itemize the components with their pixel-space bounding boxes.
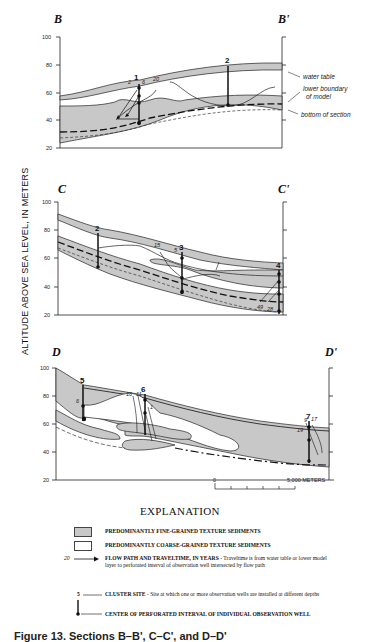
scale-bar: [215, 483, 295, 489]
svg-text:100: 100: [40, 365, 49, 371]
svg-text:60: 60: [44, 255, 50, 261]
legend-well-center: CENTER OF PERFORATED INTERVAL OF INDIVID…: [105, 611, 311, 618]
c-well-2: 2: [95, 224, 100, 233]
svg-text:17: 17: [311, 416, 318, 422]
section-d-diagram: 100 80 60 40 20 5 6 7 6 16 11 1 9 17 19 …: [0, 355, 374, 495]
svg-text:20: 20: [43, 477, 49, 483]
b-well-2: 2: [225, 56, 230, 65]
svg-text:2: 2: [127, 79, 131, 85]
d-well-5: 5: [80, 376, 85, 385]
b-tick-100: 100: [42, 34, 51, 40]
svg-text:20: 20: [152, 76, 160, 82]
svg-text:80: 80: [46, 62, 52, 68]
cluster-well-icon: [76, 592, 106, 622]
svg-text:49: 49: [257, 304, 263, 310]
svg-text:20: 20: [46, 145, 52, 151]
explanation-title: EXPLANATION: [140, 505, 220, 517]
svg-text:60: 60: [43, 421, 49, 427]
c-well-4: 4: [276, 261, 281, 270]
scale-bar-start: 0: [213, 477, 216, 483]
svg-text:9: 9: [304, 417, 307, 423]
svg-text:of model: of model: [306, 93, 331, 100]
legend-coarse-grained: PREDOMINANTLY COARSE-GRAINED TEXTURE SED…: [105, 542, 271, 549]
svg-text:1: 1: [150, 404, 153, 410]
legend-flow-path: FLOW PATH AND TRAVELTIME, IN YEARS - Tra…: [105, 555, 335, 569]
annotation-water-table: water table: [303, 73, 335, 80]
flow-arrow-value: 20: [64, 555, 70, 562]
svg-text:15: 15: [154, 242, 161, 248]
svg-text:28: 28: [266, 306, 274, 312]
annotation-lower-boundary: lower boundary: [303, 85, 348, 93]
d-well-6: 6: [141, 385, 146, 394]
svg-text:11: 11: [136, 391, 142, 397]
svg-text:20: 20: [44, 312, 50, 318]
svg-text:40: 40: [44, 284, 50, 290]
coarse-grained-swatch: [74, 541, 92, 551]
flow-arrow-icon: [74, 555, 100, 563]
section-c-diagram: 100 80 60 40 20 2 3 4 15 5 49 28: [0, 190, 374, 330]
legend-fine-grained: PREDOMINANTLY FINE-GRAINED TEXTURE SEDIM…: [105, 528, 261, 535]
b-well-1: 1: [134, 73, 139, 82]
svg-text:16: 16: [126, 391, 133, 397]
section-b-diagram: 100 80 60 40 20 1 2 2 6 20 water table l…: [0, 0, 374, 170]
annotation-bottom-of-section: bottom of section: [301, 111, 351, 118]
svg-text:100: 100: [42, 199, 51, 205]
svg-text:60: 60: [46, 90, 52, 96]
c-well-3: 3: [179, 243, 184, 252]
svg-text:40: 40: [43, 449, 49, 455]
fine-grained-swatch: [74, 527, 92, 537]
scale-bar-end: 5,000 METERS: [287, 477, 326, 483]
svg-text:19: 19: [297, 427, 303, 433]
svg-text:80: 80: [44, 227, 50, 233]
svg-text:40: 40: [46, 117, 52, 123]
svg-text:80: 80: [43, 393, 49, 399]
legend-cluster-site: CLUSTER SITE - Site at which one or more…: [105, 591, 335, 598]
figure-caption: Figure 13. Sections B–B', C–C', and D–D': [14, 630, 227, 642]
